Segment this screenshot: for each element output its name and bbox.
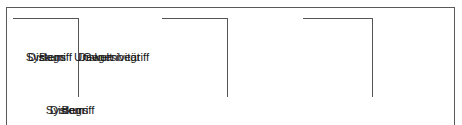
term-label-diskurs: Diskurs <box>0 50 66 64</box>
bracket-horizontal-line <box>303 18 373 19</box>
bracket-vertical-stem <box>227 18 228 97</box>
bracket-horizontal-line <box>162 18 228 19</box>
bracket-diagram: Begriff Gegenbegriff Begriff System Umwe… <box>0 0 462 125</box>
summary-label-diskurs: Diskurs <box>24 103 114 117</box>
bracket-vertical-stem <box>372 18 373 97</box>
term-label-diskursivitaet: Diskursivität <box>78 50 178 64</box>
bracket-horizontal-line <box>13 18 79 19</box>
